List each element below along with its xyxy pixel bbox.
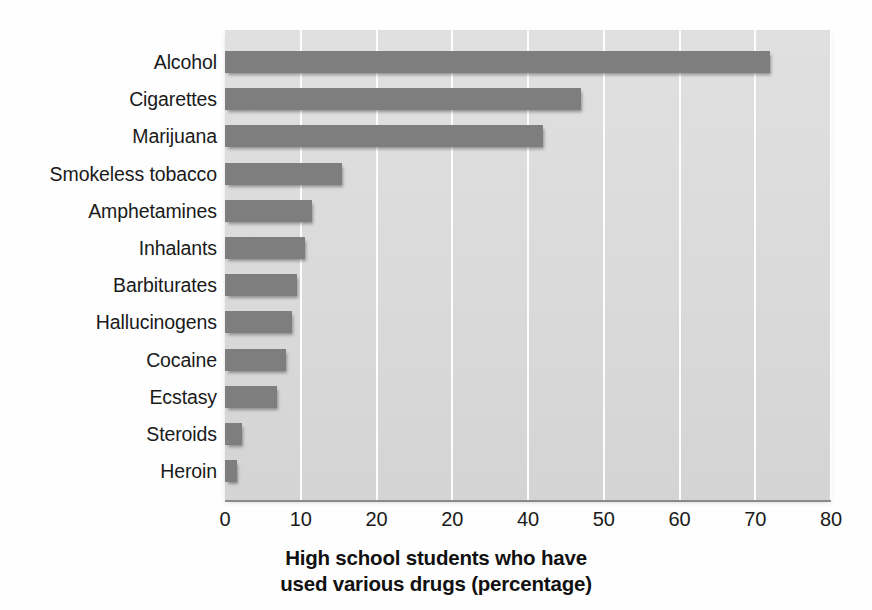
category-label: Cigarettes (0, 88, 217, 111)
category-label: Marijuana (0, 125, 217, 148)
bar (225, 386, 277, 408)
category-label: Steroids (0, 423, 217, 446)
x-tick-label: 0 (219, 508, 230, 531)
x-tick-label: 50 (593, 508, 615, 531)
x-tick-label: 80 (820, 508, 842, 531)
x-tick-label: 10 (290, 508, 312, 531)
gridline (754, 30, 756, 500)
gridline (603, 30, 605, 500)
bar (225, 163, 342, 185)
x-tick-label: 70 (744, 508, 766, 531)
category-label: Barbiturates (0, 274, 217, 297)
category-label: Hallucinogens (0, 311, 217, 334)
category-label: Ecstasy (0, 385, 217, 408)
category-label: Amphetamines (0, 199, 217, 222)
bar (225, 237, 305, 259)
x-axis-title-line: High school students who have (0, 545, 872, 571)
category-label: Inhalants (0, 237, 217, 260)
plot-area (225, 30, 831, 500)
bar (225, 274, 297, 296)
x-tick-label: 20 (441, 508, 463, 531)
x-tick-label: 40 (517, 508, 539, 531)
bar (225, 125, 543, 147)
x-axis-title: High school students who haveused variou… (0, 545, 872, 597)
gridline (679, 30, 681, 500)
bar (225, 423, 242, 445)
bar (225, 460, 237, 482)
category-label: Smokeless tobacco (0, 162, 217, 185)
bar (225, 349, 286, 371)
category-axis-labels: AlcoholCigarettesMarijuanaSmokeless toba… (0, 30, 217, 500)
x-tick-label: 60 (668, 508, 690, 531)
bar-chart-figure: AlcoholCigarettesMarijuanaSmokeless toba… (0, 0, 872, 610)
gridline (830, 30, 832, 500)
category-label: Cocaine (0, 348, 217, 371)
x-axis-line (225, 500, 831, 502)
bar (225, 200, 312, 222)
bar (225, 311, 292, 333)
bar (225, 88, 581, 110)
category-label: Alcohol (0, 51, 217, 74)
x-tick-label: 20 (365, 508, 387, 531)
bar (225, 51, 770, 73)
x-axis-tick-labels: 01020204050607080 (225, 508, 831, 538)
x-axis-title-line: used various drugs (percentage) (0, 571, 872, 597)
category-label: Heroin (0, 460, 217, 483)
